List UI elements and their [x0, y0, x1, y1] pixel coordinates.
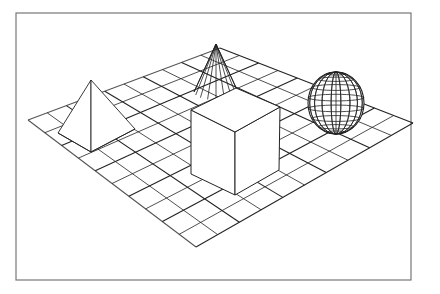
pyramid-shape [58, 80, 135, 152]
wireframe-scene [0, 0, 440, 294]
cube-shape [191, 88, 280, 195]
scene-canvas [0, 0, 440, 294]
sphere-shape [308, 72, 364, 134]
